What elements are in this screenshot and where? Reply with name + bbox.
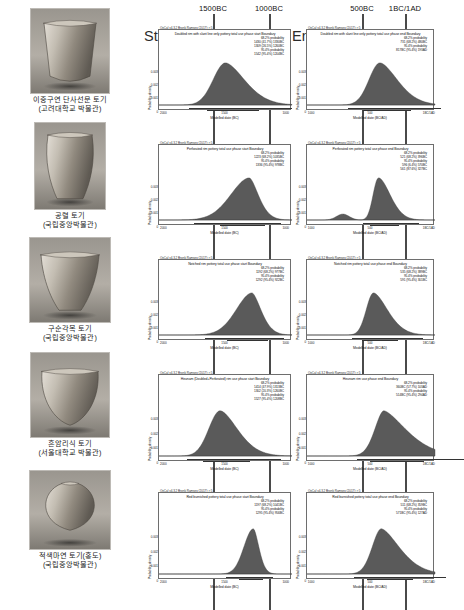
x-axis-tick-label: 1000 (308, 111, 314, 115)
y-axis-tick-label: 0 (298, 579, 306, 583)
x-axis-tick-label: 1000 (308, 462, 314, 466)
artifact-photo (34, 122, 106, 210)
probability-distribution-curve (307, 260, 435, 341)
y-axis-tick-label: 0.003 (150, 185, 158, 189)
x-axis-label: Modelled date (BC) (210, 231, 238, 235)
artifact-caption: 공렬 토기(국립중앙박물관) (0, 212, 140, 229)
y-axis-tick-label: 0.002 (298, 550, 306, 554)
x-axis-tick-label: 1000 (282, 111, 288, 115)
y-axis-label: Probability density (148, 555, 152, 579)
artifact-photo (29, 237, 111, 323)
artifact-caption: 구순각목 토기(국립중앙박물관) (0, 325, 140, 342)
probability-distribution-curve (307, 493, 435, 580)
range-bar-68 (370, 461, 424, 462)
artifact-column: 이중구연 단사선문 토기(고려대학교 박물관) 공렬 토기(국립중앙박물관) (0, 0, 140, 610)
plot-box: Heunam rim use phase end Boundary68.2% p… (306, 374, 434, 461)
artifact-museum: (국립중앙박물관) (0, 334, 140, 343)
x-axis-label: Modelled date (BC/AD) (353, 231, 387, 235)
x-axis-label: Modelled date (BC/AD) (353, 467, 387, 471)
pottery-vessel-illustration (30, 238, 110, 322)
probability-distribution-curve (159, 493, 292, 580)
x-axis-tick-label: 2000 (160, 462, 166, 466)
oxcal-plot: OxCal v4.3.2 Bronk Ramsey (2017); r:5Heu… (158, 371, 291, 475)
range-bar-95 (357, 459, 464, 460)
x-axis-tick-label: 1500 (221, 580, 227, 584)
plot-box: Red burnished pottery total use phase en… (306, 492, 434, 579)
artifact-caption: 적색마연 토기(홍도)(국립중앙박물관) (0, 552, 140, 569)
x-axis-tick-label: 500 (368, 226, 373, 230)
plot-box: Doubled rim with slant line only pottery… (158, 29, 291, 110)
x-axis-label: Modelled date (BC/AD) (353, 585, 387, 589)
range-bar-95 (226, 577, 273, 578)
oxcal-plot: OxCal v4.3.2 Bronk Ramsey (2017); r:5Dou… (158, 26, 291, 124)
reference-line-label-1bc1ad: 1BC/1AD (389, 4, 421, 13)
x-axis-tick-label: 2000 (160, 341, 166, 345)
y-axis-tick-label: 0.002 (298, 432, 306, 436)
plot-box: Heunam (Doubled+Perforated) rim use phas… (158, 374, 291, 461)
y-axis-tick-label: 0.003 (150, 417, 158, 421)
artifact-row: 흔암리식 토기(서울대학교 박물관) (0, 352, 140, 457)
y-axis-label: Probability density (296, 316, 300, 340)
x-axis-label: Modelled date (BC) (210, 346, 238, 350)
range-bar-68 (370, 225, 398, 226)
y-axis-label: Probability density (148, 437, 152, 461)
oxcal-plot: OxCal v4.3.2 Bronk Ramsey (2017); r:5Dou… (306, 26, 434, 124)
y-axis-label: Probability density (296, 86, 300, 110)
range-bar-95 (205, 338, 284, 339)
reference-line-label-1000bc: 1000BC (255, 4, 283, 13)
y-axis-tick-label: 0.003 (150, 535, 158, 539)
reference-line-label-1500bc: 1500BC (199, 4, 227, 13)
x-axis-tick-label: 2000 (160, 226, 166, 230)
artifact-row: 적색마연 토기(홍도)(국립중앙박물관) (0, 470, 140, 569)
y-axis-label: Probability density (148, 201, 152, 225)
x-axis-tick-label: 1BC/1AD (423, 111, 435, 115)
plot-box: Perforated rim pottery total use phase s… (158, 144, 291, 225)
x-axis-tick-label: 500 (368, 111, 373, 115)
x-axis-tick-label: 1000 (308, 341, 314, 345)
artifact-museum: (서울대학교 박물관) (0, 449, 140, 458)
pottery-vessel-illustration (31, 9, 109, 93)
x-axis-tick-label: 1500 (221, 111, 227, 115)
x-axis-tick-label: 1000 (308, 226, 314, 230)
x-axis-tick-label: 1BC/1AD (423, 226, 435, 230)
range-bar-95 (194, 223, 282, 224)
y-axis-label: Probability density (296, 437, 300, 461)
artifact-museum: (고려대학교 박물관) (0, 105, 140, 114)
x-axis-label: Modelled date (BC/AD) (353, 116, 387, 120)
x-axis-tick-label: 1000 (282, 580, 288, 584)
artifact-museum: (국립중앙박물관) (0, 221, 140, 230)
pottery-vessel-illustration (30, 471, 110, 549)
range-bar-68 (227, 340, 268, 341)
y-axis-tick-label: 0.003 (298, 185, 306, 189)
oxcal-plot: OxCal v4.3.2 Bronk Ramsey (2017); r:5Red… (158, 489, 291, 593)
range-bar-95 (363, 223, 419, 224)
range-bar-68 (239, 579, 263, 580)
range-bar-95 (187, 459, 281, 460)
x-axis-label: Modelled date (BC) (210, 467, 238, 471)
y-axis-tick-label: 0 (298, 461, 306, 465)
artifact-photo (30, 352, 110, 438)
probability-distribution-curve (159, 260, 292, 341)
plot-box: Red burnished pottery total use phase st… (158, 492, 291, 579)
oxcal-plot: OxCal v4.3.2 Bronk Ramsey (2017); r:5Not… (306, 256, 434, 354)
oxcal-plot: OxCal v4.3.2 Bronk Ramsey (2017); r:5Per… (306, 141, 434, 239)
y-axis-tick-label: 0.003 (298, 300, 306, 304)
x-axis-tick-label: 1BC/1AD (423, 462, 435, 466)
oxcal-plot: OxCal v4.3.2 Bronk Ramsey (2017); r:5Not… (158, 256, 291, 354)
x-axis-tick-label: 500 (368, 341, 373, 345)
plot-box: Doubled rim with slant line only pottery… (306, 29, 434, 110)
oxcal-plot: OxCal v4.3.2 Bronk Ramsey (2017); r:5Per… (158, 141, 291, 239)
y-axis-label: Probability density (148, 316, 152, 340)
x-axis-tick-label: 500 (368, 580, 373, 584)
y-axis-tick-label: 0 (150, 225, 158, 229)
artifact-caption: 이중구연 단사선문 토기(고려대학교 박물관) (0, 96, 140, 113)
y-axis-label: Probability density (296, 201, 300, 225)
pottery-vessel-illustration (35, 123, 105, 209)
probability-distribution-curve (307, 30, 435, 111)
x-axis-tick-label: 1500 (221, 226, 227, 230)
y-axis-label: Probability density (148, 86, 152, 110)
x-axis-label: Modelled date (BC) (210, 116, 238, 120)
x-axis-tick-label: 500 (368, 462, 373, 466)
y-axis-tick-label: 0 (150, 340, 158, 344)
x-axis-tick-label: 2000 (160, 111, 166, 115)
